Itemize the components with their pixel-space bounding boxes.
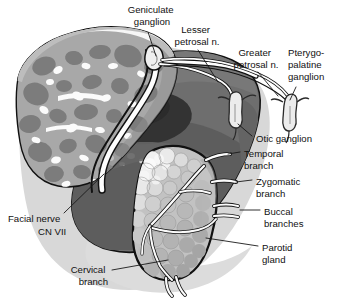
label-lesser-petrosal-nerve: Lesser petrosal n. xyxy=(175,24,220,47)
zygomatic-branch-structure xyxy=(212,181,236,183)
label-zygomatic-branch: Zygomatic branch xyxy=(256,176,303,199)
anatomical-figure: Geniculate ganglion Lesser petrosal n. G… xyxy=(0,0,338,302)
label-otic-ganglion: Otic ganglion xyxy=(256,133,312,144)
label-geniculate-ganglion: Geniculate ganglion xyxy=(128,4,177,27)
label-parotid-gland: Parotid gland xyxy=(262,242,295,265)
facial-nerve-diagram: Geniculate ganglion Lesser petrosal n. G… xyxy=(0,0,338,302)
label-greater-petrosal-nerve: Greater petrosal n. xyxy=(234,47,279,70)
label-pterygopalatine-ganglion: Pterygo- palatine ganglion xyxy=(288,47,327,82)
label-buccal-branches: Buccal branches xyxy=(264,206,304,229)
label-temporal-branch: Temporal branch xyxy=(244,148,286,171)
